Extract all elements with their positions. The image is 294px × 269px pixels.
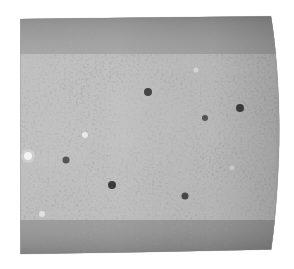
cylinder-shading (0, 0, 294, 269)
speckle-cylinder-figure (0, 0, 294, 269)
cylinder-clip-group (0, 0, 294, 269)
image-canvas (0, 0, 294, 269)
